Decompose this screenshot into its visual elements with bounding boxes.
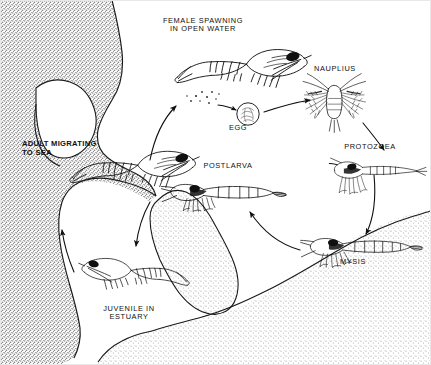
label-juvenile-estuary: JUVENILE IN ESTUARY: [85, 305, 173, 322]
label-protozoea: PROTOZOEA: [330, 143, 410, 151]
label-female-spawning: FEMALE SPAWNING IN OPEN WATER: [150, 17, 256, 34]
label-adult-migrating: ADULT MIGRATING TO SEA: [22, 140, 126, 157]
life-cycle-illustration: [0, 0, 431, 365]
label-postlarva: POSTLARVA: [190, 162, 266, 170]
label-egg: EGG: [222, 124, 254, 132]
label-mysis: MYSIS: [325, 258, 381, 266]
shrimp-life-cycle-figure: FEMALE SPAWNING IN OPEN WATER NAUPLIUS P…: [0, 0, 431, 365]
label-nauplius: NAUPLIUS: [300, 65, 370, 73]
